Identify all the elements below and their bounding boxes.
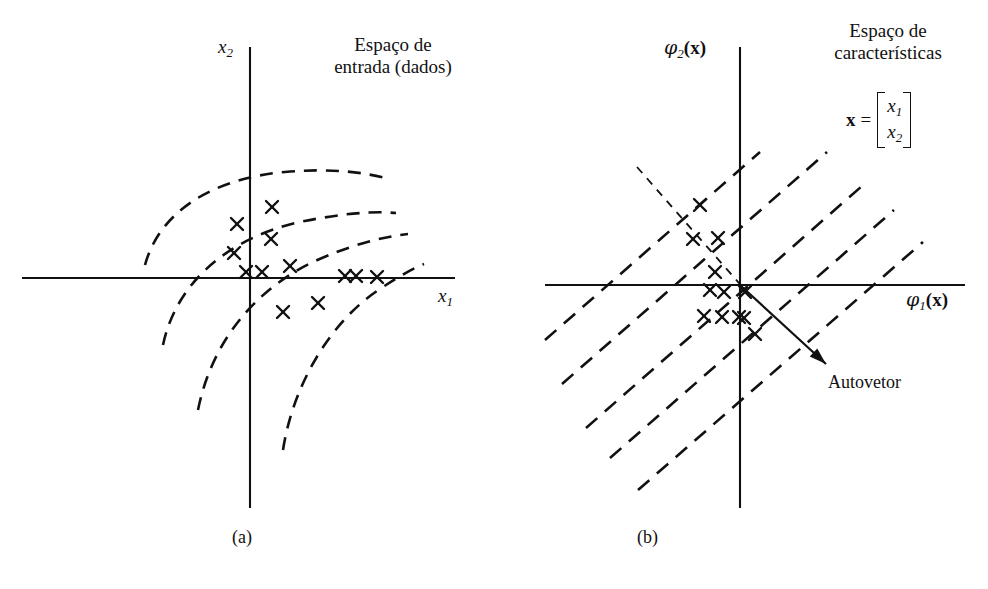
data-point-marker [694, 199, 706, 211]
panel-a-title-line2: entrada (dados) [318, 56, 468, 78]
equals-sign: = [861, 109, 872, 131]
matrix-bracket: x1 x2 [877, 92, 911, 148]
panel-b-y-axis-label: φ2(x) [664, 36, 706, 61]
contour-line-2 [562, 152, 827, 384]
panel-b-caption: (b) [637, 527, 658, 548]
panel-b-x-axis-label: φ1(x) [906, 288, 948, 313]
data-point-marker [256, 266, 268, 278]
eigenvector-arrow-shaft [740, 285, 826, 364]
panel-a-title: Espaço de entrada (dados) [318, 34, 468, 79]
panel-a-caption: (a) [232, 527, 252, 548]
eigenvector-label: Autovetor [828, 372, 901, 393]
data-point-marker [312, 297, 324, 309]
contour-line-4 [610, 210, 894, 458]
vector-definition: x = x1 x2 [846, 92, 911, 148]
data-point-marker [709, 266, 721, 278]
data-point-marker [228, 247, 240, 259]
data-point-marker [277, 306, 289, 318]
data-point-marker [698, 310, 710, 322]
panel-a-title-line1: Espaço de [318, 34, 468, 56]
data-point-marker [712, 232, 724, 244]
data-point-marker [231, 218, 243, 230]
panel-a-graphic [22, 47, 455, 508]
vector-symbol: x [846, 109, 856, 131]
data-point-marker [284, 260, 296, 272]
panel-b-title: Espaço de características [800, 20, 976, 65]
contour-arc-1 [145, 170, 385, 265]
panel-a-y-axis-label: x2 [218, 36, 233, 60]
data-point-marker [687, 233, 699, 245]
figure-canvas [0, 0, 988, 589]
contour-arc-4 [283, 264, 424, 450]
panel-a-x-axis-label: x1 [438, 285, 453, 309]
matrix-row-1: x1 [887, 95, 902, 116]
data-point-marker [266, 201, 278, 213]
data-point-marker [350, 270, 362, 282]
data-point-marker [339, 270, 351, 282]
data-point-marker [718, 286, 730, 298]
perpendicular-contour-line [637, 167, 745, 290]
contour-line-3 [586, 186, 862, 428]
data-point-marker [265, 233, 277, 245]
panel-b-title-line2: características [800, 42, 976, 64]
data-point-marker [716, 311, 728, 323]
panel-b-title-line1: Espaço de [800, 20, 976, 42]
matrix-row-2: x2 [887, 121, 902, 142]
figure-root: x2 Espaço de entrada (dados) x1 (a) φ2(x… [0, 0, 988, 589]
